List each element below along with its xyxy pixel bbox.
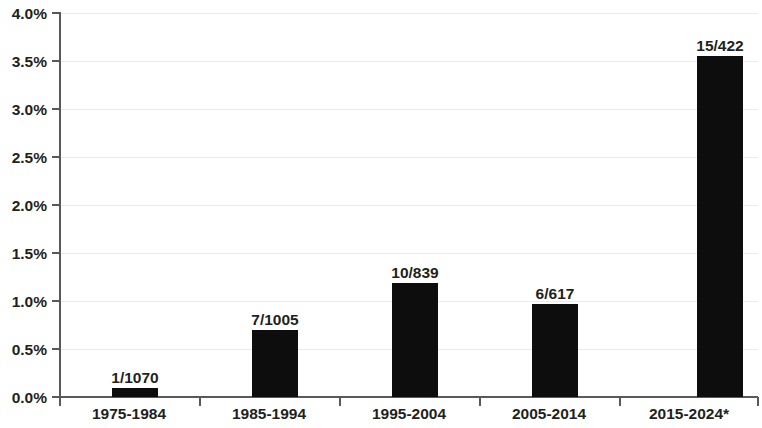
y-axis-label-0-0: 0.0%: [0, 390, 47, 406]
gridline-3-5: [60, 61, 758, 62]
y-tick-3-0: [52, 108, 60, 110]
y-axis-label-1-0: 1.0%: [0, 294, 47, 310]
bar-value-label-2015-2024: 15/422: [670, 38, 762, 54]
x-tick-0: [59, 397, 61, 406]
x-tick-5: [757, 397, 759, 406]
x-tick-1: [199, 397, 201, 406]
y-axis-label-0-5: 0.5%: [0, 342, 47, 358]
y-axis-label-3-0: 3.0%: [0, 102, 47, 118]
bar-2005-2014: [532, 304, 578, 397]
x-tick-3: [479, 397, 481, 406]
x-axis-label-2005-2014: 2005-2014: [479, 406, 619, 422]
bar-value-label-1985-1994: 7/1005: [225, 312, 325, 328]
bar-1995-2004: [392, 283, 438, 397]
gridline-1-5: [60, 253, 758, 254]
bar-1975-1984: [112, 388, 158, 397]
gridline-2-0: [60, 205, 758, 206]
bar-value-label-1995-2004: 10/839: [365, 265, 465, 281]
y-tick-3-5: [52, 60, 60, 62]
gridline-3-0: [60, 109, 758, 110]
x-axis-label-1995-2004: 1995-2004: [339, 406, 479, 422]
y-tick-1-5: [52, 252, 60, 254]
y-tick-2-5: [52, 156, 60, 158]
y-tick-4-0: [52, 12, 60, 14]
y-tick-1-0: [52, 300, 60, 302]
x-tick-4: [619, 397, 621, 406]
gridline-4-0: [60, 13, 758, 14]
bar-1985-1994: [252, 330, 298, 397]
x-axis-label-1985-1994: 1985-1994: [199, 406, 339, 422]
y-axis-label-1-5: 1.5%: [0, 246, 47, 262]
y-tick-2-0: [52, 204, 60, 206]
bar-2015-2024: [697, 56, 743, 397]
bar-value-label-2005-2014: 6/617: [505, 286, 605, 302]
y-axis-label-3-5: 3.5%: [0, 54, 47, 70]
y-tick-0-5: [52, 348, 60, 350]
x-tick-2: [339, 397, 341, 406]
y-axis-label-4-0: 4.0%: [0, 6, 47, 22]
x-axis-label-1975-1984: 1975-1984: [59, 406, 199, 422]
gridline-2-5: [60, 157, 758, 158]
y-axis-label-2-0: 2.0%: [0, 198, 47, 214]
y-axis-label-2-5: 2.5%: [0, 150, 47, 166]
x-axis-label-2015-2024: 2015-2024*: [619, 406, 759, 422]
bar-chart: 4.0% 3.5% 3.0% 2.5% 2.0% 1.5% 1.0% 0.5% …: [0, 0, 762, 428]
bar-value-label-1975-1984: 1/1070: [85, 370, 185, 386]
